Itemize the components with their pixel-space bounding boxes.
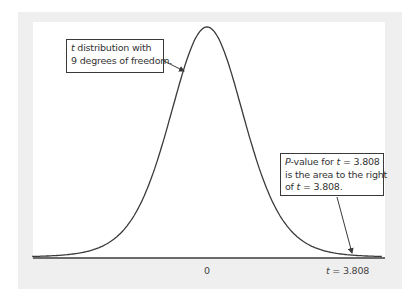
tick-label-zero: 0 <box>204 265 210 276</box>
t-distribution-diagram <box>0 0 417 289</box>
pvalue-callout: P-value for t = 3.808 is the area to the… <box>280 153 384 196</box>
pvalue-callout-line2: is the area to the right <box>285 169 379 182</box>
tick-label-t-observed: t = 3.808 <box>326 265 369 276</box>
distribution-callout-line1: t distribution with <box>71 42 159 55</box>
distribution-callout: t distribution with 9 degrees of freedom… <box>66 39 164 73</box>
pvalue-arrow <box>337 197 352 253</box>
pvalue-callout-line1: P-value for t = 3.808 <box>285 156 379 169</box>
distribution-callout-line2: 9 degrees of freedom. <box>71 55 159 68</box>
pvalue-callout-line3: of t = 3.808. <box>285 181 379 194</box>
